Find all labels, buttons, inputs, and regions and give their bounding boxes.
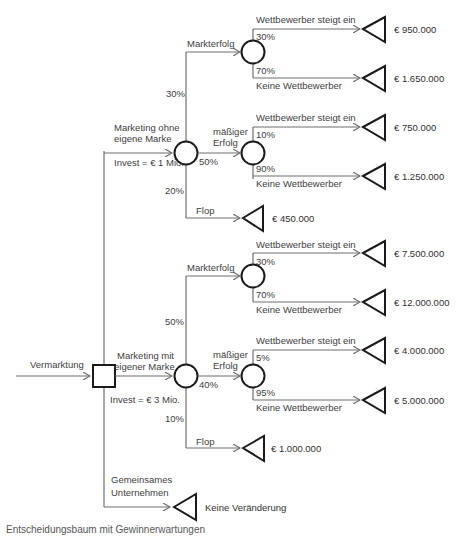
branch-prob: 5% [256, 352, 270, 363]
alt1-markterfolg-label: Markterfolg [187, 38, 235, 49]
chance-node-alt1-maessig [242, 142, 265, 165]
branch-label: Wettbewerber steigt ein [256, 335, 356, 346]
alt2-markterfolg-label: Markterfolg [187, 262, 235, 273]
figure-caption: Entscheidungsbaum mit Gewinnerwartungen [6, 524, 205, 536]
alt1-maessig-label-line1: mäßiger [213, 126, 248, 137]
end-node-triangle [363, 290, 385, 315]
branch-label: Keine Wettbewerber [256, 402, 342, 413]
end-node-triangle [363, 17, 385, 42]
alt2-maessig-prob: 40% [199, 379, 219, 390]
payoff-value: Keine Veränderung [205, 502, 286, 513]
payoff-value: € 1.650.000 [394, 73, 444, 84]
alt2-label-line2: eigener Marke [114, 361, 175, 372]
end-node-triangle [363, 241, 385, 266]
payoff-value: € 4.000.000 [394, 345, 444, 356]
decision-node-root [93, 365, 115, 387]
alt2-maessig-label-line1: mäßiger [213, 349, 248, 360]
branch-prob: 70% [256, 289, 276, 300]
end-node-triangle [363, 388, 385, 413]
alt3-label-line1: Gemeinsames [111, 474, 172, 485]
alt2-maessig-label-line2: Erfolg [213, 360, 238, 371]
branch-prob: 30% [256, 256, 276, 267]
chance-node-alt1 [175, 142, 198, 165]
branch-prob: 10% [256, 129, 276, 140]
payoff-value: € 450.000 [272, 213, 314, 224]
alt1-maessig-label-line2: Erfolg [213, 137, 238, 148]
end-node-triangle [363, 66, 385, 91]
alt1-markterfolg-prob: 30% [166, 88, 186, 99]
payoff-value: € 12.000.000 [394, 297, 449, 308]
branch-prob: 90% [256, 163, 276, 174]
alt1-invest: Invest = € 1 Mio. [114, 157, 184, 168]
chance-node-alt2-maessig [242, 365, 265, 388]
end-node-triangle [174, 494, 196, 520]
chance-node-alt2 [175, 365, 198, 388]
alt2-flop-label: Flop [196, 436, 214, 447]
alternative-gemeinsames-unternehmen: Gemeinsames Unternehmen Keine Veränderun… [104, 474, 286, 520]
branch-prob: 95% [256, 387, 276, 398]
payoff-value: € 950.000 [394, 24, 436, 35]
payoff-value: € 1.250.000 [394, 171, 444, 182]
branch-label: Keine Wettbewerber [256, 304, 342, 315]
chance-node-alt2-markterfolg [242, 265, 265, 288]
branch-label: Keine Wettbewerber [256, 80, 342, 91]
branch-label: Wettbewerber steigt ein [256, 14, 356, 25]
alt1-label-line2: eigene Marke [114, 133, 172, 144]
payoff-value: € 7.500.000 [394, 248, 444, 259]
branch-label: Wettbewerber steigt ein [256, 239, 356, 250]
end-node-triangle [243, 206, 263, 231]
alternative-ohne-marke: Marketing ohne eigene Marke Invest = € 1… [104, 14, 444, 231]
alternative-mit-marke: Marketing mit eigener Marke Invest = € 3… [110, 239, 449, 461]
payoff-value: € 5.000.000 [394, 395, 444, 406]
branch-label: Keine Wettbewerber [256, 178, 342, 189]
alt2-markterfolg-prob: 50% [165, 316, 185, 327]
branch-prob: 30% [256, 31, 276, 42]
alt2-label-line1: Marketing mit [117, 350, 174, 361]
alt2-invest: Invest = € 3 Mio. [110, 394, 180, 405]
root-incoming-label: Vermarktung [30, 359, 84, 370]
branch-prob: 70% [256, 65, 276, 76]
end-node-triangle [363, 164, 385, 189]
branch-label: Wettbewerber steigt ein [256, 112, 356, 123]
alt1-maessig-prob: 50% [199, 156, 219, 167]
end-node-triangle [363, 338, 385, 363]
alt1-label-line1: Marketing ohne [114, 122, 179, 133]
end-node-triangle [363, 115, 385, 140]
chance-node-alt1-markterfolg [242, 41, 265, 64]
end-node-triangle [243, 436, 264, 461]
alt3-label-line2: Unternehmen [111, 487, 169, 498]
payoff-value: € 750.000 [394, 122, 436, 133]
root-incoming-branch: Vermarktung [16, 359, 90, 376]
alt2-flop-prob: 10% [165, 413, 185, 424]
payoff-value: € 1.000.000 [271, 443, 321, 454]
alt1-flop-label: Flop [196, 205, 214, 216]
alt1-flop-prob: 20% [165, 185, 185, 196]
